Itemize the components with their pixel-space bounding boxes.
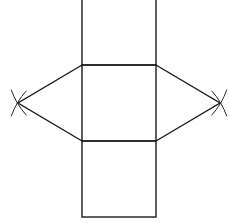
- prism-net-diagram: [0, 0, 231, 223]
- diagram-canvas: [0, 0, 231, 223]
- top-face: [82, 0, 156, 65]
- right-triangle: [156, 65, 220, 141]
- middle-face: [82, 65, 156, 141]
- bottom-face: [82, 141, 156, 217]
- left-triangle: [18, 65, 82, 141]
